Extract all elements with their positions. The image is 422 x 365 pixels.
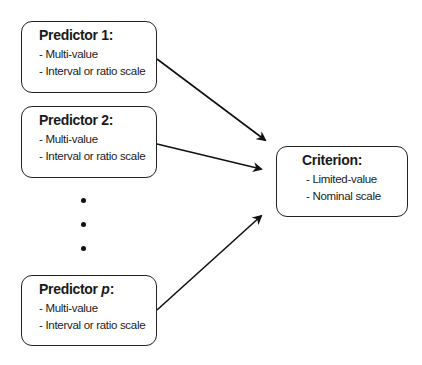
predictor-1-box: Predictor 1: - Multi-value - Interval or…	[21, 21, 157, 93]
predictor-p-item-2: - Interval or ratio scale	[39, 319, 145, 331]
criterion-box: Criterion: - Limited-value - Nominal sca…	[276, 146, 408, 217]
criterion-title: Criterion:	[302, 152, 362, 168]
arrow-predictor-2-to-criterion	[157, 144, 261, 169]
predictor-2-title: Predictor 2:	[39, 112, 113, 128]
predictor-2-title-var: 2	[101, 112, 109, 128]
predictor-1-title: Predictor 1:	[39, 27, 113, 43]
predictor-2-title-suffix: :	[109, 112, 113, 128]
predictor-1-title-suffix: :	[109, 27, 113, 43]
ellipsis-dot-1	[81, 198, 86, 203]
predictor-p-title-suffix: :	[110, 281, 114, 297]
predictor-1-item-1: - Multi-value	[39, 48, 98, 60]
ellipsis-dot-3	[81, 246, 86, 251]
predictor-1-item-2: - Interval or ratio scale	[39, 65, 145, 77]
criterion-item-1: - Limited-value	[306, 173, 377, 185]
predictor-1-title-prefix: Predictor	[39, 27, 101, 43]
predictor-p-box: Predictor p: - Multi-value - Interval or…	[21, 275, 157, 346]
predictor-2-item-2: - Interval or ratio scale	[39, 150, 145, 162]
predictor-p-title-var: p	[101, 281, 109, 297]
predictor-p-title-prefix: Predictor	[39, 281, 101, 297]
predictor-1-title-var: 1	[101, 27, 109, 43]
arrow-predictor-p-to-criterion	[157, 216, 261, 310]
predictor-2-title-prefix: Predictor	[39, 112, 101, 128]
predictor-p-title: Predictor p:	[39, 281, 114, 297]
criterion-item-2: - Nominal scale	[306, 190, 381, 202]
arrow-predictor-1-to-criterion	[157, 59, 265, 140]
ellipsis-dot-2	[81, 222, 86, 227]
predictor-2-item-1: - Multi-value	[39, 133, 98, 145]
predictor-2-box: Predictor 2: - Multi-value - Interval or…	[21, 106, 157, 178]
predictor-p-item-1: - Multi-value	[39, 302, 98, 314]
